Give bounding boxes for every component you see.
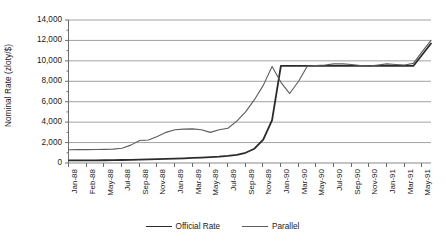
x-axis-tick-mark bbox=[368, 163, 369, 167]
y-axis-tick-labels: 02,0004,0006,0008,00010,00012,00014,000 bbox=[16, 0, 66, 241]
y-axis-tick-label: 8,000 bbox=[42, 77, 63, 85]
x-axis-tick-label: Sep-89 bbox=[248, 169, 256, 195]
x-axis-tick-mark bbox=[262, 163, 263, 167]
x-axis-tick-label: May-90 bbox=[318, 169, 326, 196]
legend-item-official-rate: Official Rate bbox=[146, 223, 220, 231]
y-axis-tick-label: 2,000 bbox=[42, 138, 63, 146]
x-axis-tick-mark bbox=[315, 163, 316, 167]
series-line-official-rate bbox=[69, 43, 431, 160]
x-axis-tick-label: Feb-88 bbox=[89, 169, 97, 194]
x-axis-tick-mark bbox=[421, 163, 422, 167]
x-axis-tick-label: Jan-90 bbox=[283, 169, 291, 193]
y-axis-tick-label: 12,000 bbox=[37, 36, 62, 44]
x-axis-tick-mark bbox=[227, 163, 228, 167]
plot-area bbox=[68, 20, 431, 163]
x-axis-tick-mark bbox=[192, 163, 193, 167]
legend-item-parallel: Parallel bbox=[242, 223, 299, 231]
x-axis-tick-mark bbox=[103, 163, 104, 167]
x-axis-tick-label: Jul-89 bbox=[230, 169, 238, 191]
x-axis-tick-label: Mar-90 bbox=[301, 169, 309, 194]
x-axis-tick-label: Nov-88 bbox=[159, 169, 167, 195]
legend-label-parallel: Parallel bbox=[272, 223, 299, 231]
x-axis-tick-mark bbox=[298, 163, 299, 167]
y-axis-title-text: Nominal Rate (zloty/$) bbox=[5, 43, 14, 126]
x-axis-tick-mark bbox=[404, 163, 405, 167]
x-axis-tick-mark bbox=[386, 163, 387, 167]
series-line-parallel bbox=[69, 40, 431, 149]
x-axis-tick-mark bbox=[121, 163, 122, 167]
x-axis-tick-label: Nov-90 bbox=[371, 169, 379, 195]
legend-label-official-rate: Official Rate bbox=[176, 223, 220, 231]
x-axis-tick-mark bbox=[139, 163, 140, 167]
y-axis-tick-label: 14,000 bbox=[37, 16, 62, 24]
x-axis-tick-label: Jan-89 bbox=[177, 169, 185, 193]
y-axis-tick-label: 0 bbox=[57, 159, 62, 167]
x-axis-tick-label: Sep-88 bbox=[142, 169, 150, 195]
x-axis-tick-label: Jul-90 bbox=[336, 169, 344, 191]
x-axis-tick-mark bbox=[156, 163, 157, 167]
data-series-layer bbox=[69, 20, 431, 163]
x-axis-tick-label: May-89 bbox=[212, 169, 220, 196]
x-axis-tick-label: Mar-91 bbox=[407, 169, 415, 194]
x-axis-tick-mark bbox=[174, 163, 175, 167]
x-axis-tick-label: Jan-88 bbox=[71, 169, 79, 193]
x-axis-tick-mark bbox=[209, 163, 210, 167]
y-axis-tick-label: 10,000 bbox=[37, 57, 62, 65]
chart-figure: Nominal Rate (zloty/$) 02,0004,0006,0008… bbox=[0, 0, 445, 241]
y-axis-tick-label: 4,000 bbox=[42, 118, 63, 126]
y-axis-tick-label: 6,000 bbox=[42, 98, 63, 106]
x-axis-tick-label: May-91 bbox=[424, 169, 432, 196]
x-axis-tick-mark bbox=[245, 163, 246, 167]
legend-swatch-official-rate bbox=[146, 226, 172, 227]
x-axis-tick-mark bbox=[68, 163, 69, 167]
x-axis-tick-labels: Jan-88Feb-88May-88Jul-88Sep-88Nov-88Jan-… bbox=[68, 163, 430, 223]
x-axis-tick-label: Jul-88 bbox=[124, 169, 132, 191]
x-axis-tick-mark bbox=[280, 163, 281, 167]
x-axis-tick-mark bbox=[86, 163, 87, 167]
legend-swatch-parallel bbox=[242, 226, 268, 227]
x-axis-tick-label: Mar-89 bbox=[195, 169, 203, 194]
x-axis-tick-label: Sep-90 bbox=[354, 169, 362, 195]
x-axis-tick-label: May-88 bbox=[107, 169, 115, 196]
x-axis-tick-label: Nov-89 bbox=[265, 169, 273, 195]
x-axis-tick-mark bbox=[333, 163, 334, 167]
x-axis-tick-label: Jan-91 bbox=[389, 169, 397, 193]
chart-legend: Official Rate Parallel bbox=[0, 219, 445, 235]
x-axis-tick-mark bbox=[351, 163, 352, 167]
